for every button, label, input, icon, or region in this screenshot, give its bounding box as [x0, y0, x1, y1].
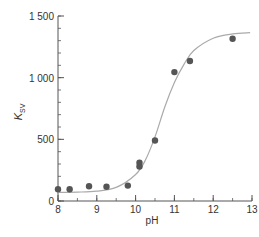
- data-point: [86, 183, 92, 189]
- y-tick-label: 1 500: [29, 11, 54, 22]
- y-tick-label: 1 000: [29, 73, 54, 84]
- x-tick-label: 11: [169, 204, 180, 215]
- data-point: [66, 186, 72, 192]
- data-point: [229, 36, 235, 42]
- x-tick-label: 9: [94, 204, 100, 215]
- fit-curve: [58, 33, 250, 193]
- data-point: [187, 58, 193, 64]
- y-tick-label: 0: [48, 196, 54, 207]
- data-point: [136, 163, 142, 169]
- data-point: [171, 69, 177, 75]
- x-axis-title: pH: [146, 215, 159, 226]
- x-tick-label: 13: [246, 204, 258, 215]
- x-tick-label: 8: [55, 204, 61, 215]
- data-point: [152, 137, 158, 143]
- ksv-vs-ph-chart: 891011121305001 0001 500 pH KSV: [0, 0, 259, 237]
- x-tick-label: 10: [130, 204, 142, 215]
- data-point: [103, 184, 109, 190]
- x-tick-label: 12: [208, 204, 220, 215]
- y-tick-label: 500: [37, 134, 54, 145]
- data-points: [55, 36, 236, 193]
- y-axis-title: KSV: [12, 103, 26, 120]
- data-point: [55, 186, 61, 192]
- data-point: [125, 182, 131, 188]
- axes: 891011121305001 0001 500: [29, 11, 258, 215]
